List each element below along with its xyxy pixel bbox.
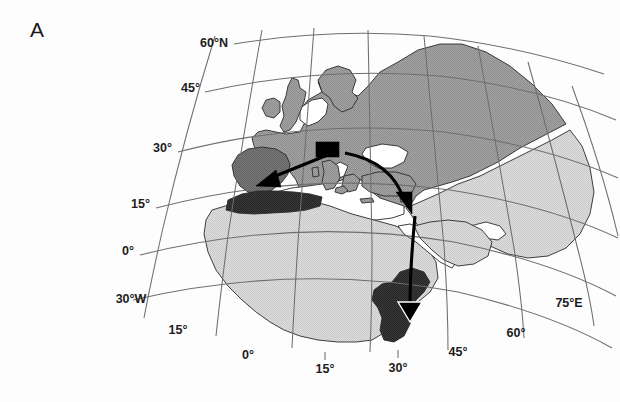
region-corsica-sardinia xyxy=(312,167,319,177)
region-ireland xyxy=(262,98,280,118)
meridian-30W xyxy=(144,36,215,318)
lon-label-30e: 30° xyxy=(389,361,408,375)
lon-label-45e: 45° xyxy=(449,345,468,359)
lon-label-15e: 15° xyxy=(316,362,335,376)
lon-label-15w: 15° xyxy=(169,323,188,337)
lat-label-30: 30° xyxy=(153,141,172,155)
map-figure: A xyxy=(0,0,620,402)
region-great-britain xyxy=(280,78,306,132)
lon-label-0: 0° xyxy=(242,348,254,362)
lat-label-15: 15° xyxy=(131,197,150,211)
lon-label-30w: 30°W xyxy=(116,292,147,306)
lon-label-60e: 60° xyxy=(507,326,526,340)
lat-label-45: 45° xyxy=(181,81,200,95)
lat-label-0: 0° xyxy=(122,244,134,258)
map-canvas: 60°N 45° 30° 15° 0° 30°W 15° 0° 15° 30° … xyxy=(0,0,620,402)
lat-label-60n: 60°N xyxy=(200,36,228,50)
region-crete xyxy=(360,198,374,203)
lon-label-75e: 75°E xyxy=(555,296,582,310)
